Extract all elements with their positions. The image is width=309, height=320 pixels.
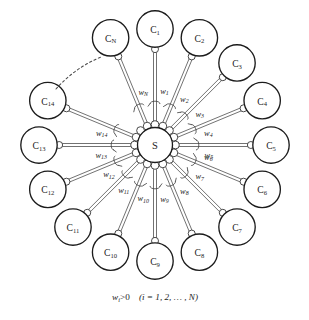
- node-C3: C3: [219, 45, 255, 81]
- node-C12: C12: [30, 171, 66, 207]
- node-C10: C10: [92, 234, 128, 270]
- node-C8: C8: [181, 234, 217, 270]
- node-C9: C9: [137, 243, 173, 279]
- node-C2: C2: [181, 20, 217, 56]
- star-network-diagram: S C1C2C3C4C5C6C7C8C9C10C11C12C13C14CN w1…: [0, 0, 309, 320]
- figure-caption: wi>0 (i = 1, 2, … , N): [112, 292, 198, 303]
- node-C4: C4: [244, 82, 280, 118]
- node-C6: C6: [244, 171, 280, 207]
- node-C14: C14: [30, 82, 66, 118]
- hub-label: S: [152, 140, 158, 151]
- node-CN: CN: [92, 20, 128, 56]
- hub-layer: S: [131, 121, 180, 170]
- node-C11: C11: [55, 209, 91, 245]
- node-C7: C7: [219, 209, 255, 245]
- node-C5: C5: [253, 127, 289, 163]
- node-C1: C1: [137, 11, 173, 47]
- node-C13: C13: [21, 127, 57, 163]
